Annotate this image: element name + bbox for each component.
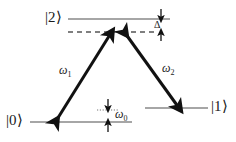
level-label-ground1: |1⟩ bbox=[211, 99, 228, 114]
omega0-subscript: 0 bbox=[123, 114, 127, 123]
splitting-label-omega0: ω0 bbox=[115, 108, 127, 123]
transition-label-omega2: ω2 bbox=[162, 62, 174, 77]
transition-label-omega1: ω1 bbox=[59, 64, 71, 79]
energy-level-diagram-figure: |2⟩ |0⟩ |1⟩ ω1 ω2 Δ ω0 bbox=[0, 0, 236, 142]
level-label-ground0: |0⟩ bbox=[6, 113, 23, 128]
detuning-label-delta: Δ bbox=[154, 20, 160, 30]
omega2-subscript: 2 bbox=[170, 68, 174, 77]
omega1-subscript: 1 bbox=[67, 70, 71, 79]
level-label-excited: |2⟩ bbox=[45, 10, 62, 25]
